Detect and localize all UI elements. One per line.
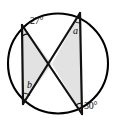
angle-label-bottom-right: 30°	[84, 101, 97, 111]
chord-A-C	[22, 25, 23, 104]
geometry-diagram	[0, 0, 121, 128]
geometry-figure: 27° a b 30°	[0, 0, 121, 128]
angle-label-top-left: 27°	[30, 16, 43, 26]
angle-label-bottom-left: b	[27, 80, 32, 90]
angle-label-top-right: a	[73, 26, 78, 36]
